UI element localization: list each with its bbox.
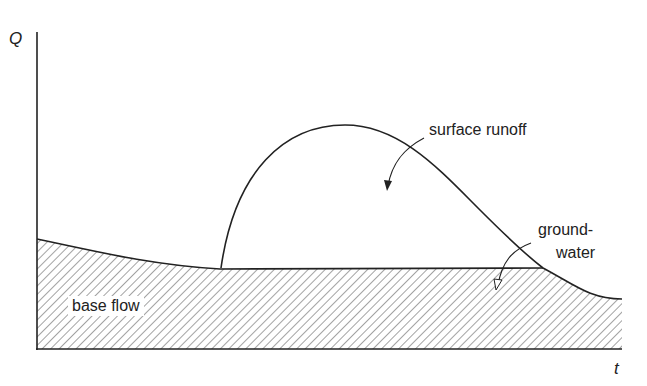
surface-runoff-label: surface runoff — [429, 122, 527, 138]
y-axis-label: Q — [9, 30, 22, 47]
groundwater-label-line2: water — [556, 245, 595, 261]
hydrograph-diagram — [0, 0, 647, 386]
base-flow-area — [37, 239, 622, 349]
x-axis-label: t — [614, 360, 619, 377]
groundwater-label-line1: ground- — [538, 222, 593, 238]
base-flow-label: base flow — [68, 296, 144, 316]
surface-runoff-arrowhead-icon — [384, 180, 392, 191]
surface-runoff-arrow — [388, 138, 424, 186]
